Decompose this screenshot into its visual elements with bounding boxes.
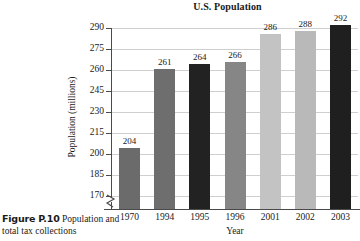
y-tick-label: 215	[78, 128, 104, 138]
y-tick-label: 230	[78, 107, 104, 117]
bar-value-label: 266	[215, 51, 255, 60]
x-tick-label: 1995	[180, 212, 220, 222]
bar-value-label: 292	[320, 14, 360, 23]
bar	[260, 34, 281, 209]
y-tick-mark	[106, 28, 112, 29]
y-tick-label: 275	[78, 44, 104, 54]
x-tick-label: 2003	[320, 212, 360, 222]
y-tick-label: 260	[78, 65, 104, 75]
bar	[189, 64, 210, 209]
bar-value-label: 261	[145, 58, 185, 67]
figure-caption: Figure P.10 Population and total tax col…	[2, 213, 124, 237]
y-tick-mark	[106, 133, 112, 134]
y-tick-label: 245	[78, 86, 104, 96]
bar-value-label: 288	[285, 20, 325, 29]
x-tick-label: 1994	[145, 212, 185, 222]
bar	[119, 148, 140, 209]
x-tick-label: 2002	[285, 212, 325, 222]
bar	[154, 69, 175, 209]
y-tick-mark	[106, 175, 112, 176]
bar	[225, 62, 246, 209]
x-axis-title: Year	[112, 226, 358, 236]
bar	[295, 31, 316, 209]
figure-container: U.S. Population Population (millions) 29…	[0, 0, 360, 241]
bar	[330, 25, 351, 209]
y-tick-mark	[106, 154, 112, 155]
y-tick-mark	[106, 196, 112, 197]
y-tick-label-group: 290275260245230215200185170	[76, 0, 104, 241]
y-tick-label: 200	[78, 149, 104, 159]
bar-value-label: 204	[110, 137, 150, 146]
y-tick-mark	[106, 70, 112, 71]
chart-title: U.S. Population	[95, 1, 360, 12]
y-tick-label: 185	[78, 170, 104, 180]
y-tick-label: 170	[78, 191, 104, 201]
bar-value-label: 286	[250, 23, 290, 32]
y-tick-mark	[106, 112, 112, 113]
y-tick-mark	[106, 91, 112, 92]
x-axis-line	[104, 209, 360, 210]
y-tick-label: 290	[78, 23, 104, 33]
x-tick-label-group: 1970199419951996200120022003	[112, 212, 358, 226]
y-tick-mark	[106, 49, 112, 50]
figure-caption-label: Figure P.10	[2, 213, 60, 224]
bar-value-label: 264	[180, 53, 220, 62]
x-tick-label: 2001	[250, 212, 290, 222]
x-tick-label: 1996	[215, 212, 255, 222]
